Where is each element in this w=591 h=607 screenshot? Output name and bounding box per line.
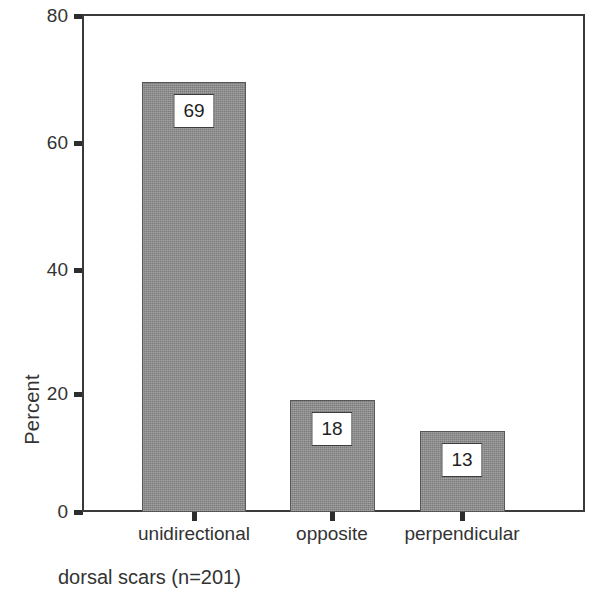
x-tick-label-perpendicular: perpendicular bbox=[404, 523, 519, 545]
bar-value-label-unidirectional: 69 bbox=[173, 94, 214, 128]
x-tick-label-unidirectional: unidirectional bbox=[138, 523, 250, 545]
y-axis-title: Percent bbox=[21, 345, 44, 475]
y-tick-label-40: 40 bbox=[0, 259, 82, 281]
y-tick-label-20: 20 bbox=[0, 383, 82, 405]
y-tick-label-60: 60 bbox=[0, 132, 82, 154]
y-tick-label-0: 0 bbox=[0, 501, 82, 523]
x-tick-mark-unidirectional bbox=[192, 512, 197, 521]
bar-value-label-opposite: 18 bbox=[311, 412, 352, 446]
chart-caption: dorsal scars (n=201) bbox=[58, 566, 241, 589]
x-tick-mark-opposite bbox=[330, 512, 335, 521]
x-tick-mark-perpendicular bbox=[460, 512, 465, 521]
bar-chart: Percent 0 20 40 60 80 69 18 13 unidirect… bbox=[0, 0, 591, 607]
y-tick-label-80: 80 bbox=[0, 5, 82, 27]
bar-value-label-perpendicular: 13 bbox=[441, 443, 482, 477]
x-tick-label-opposite: opposite bbox=[296, 523, 368, 545]
bar-unidirectional bbox=[142, 82, 246, 512]
